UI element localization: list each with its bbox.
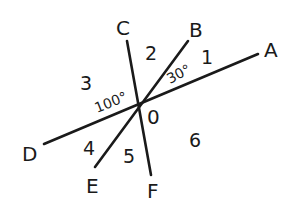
region-3: 3 xyxy=(80,72,92,94)
point-label-b: B xyxy=(189,18,203,42)
region-6: 6 xyxy=(189,129,201,151)
point-label-a: A xyxy=(264,38,278,62)
point-label-e: E xyxy=(86,174,99,198)
point-label-f: F xyxy=(147,179,159,203)
center-label-o: 0 xyxy=(147,105,160,129)
region-4: 4 xyxy=(83,137,95,159)
point-label-d: D xyxy=(22,142,37,166)
geometry-diagram: A B C D E F 0 1 2 3 4 5 6 30° 100° xyxy=(0,0,297,204)
line-ad xyxy=(44,54,258,144)
region-5: 5 xyxy=(123,145,135,167)
region-1: 1 xyxy=(201,46,213,68)
point-label-c: C xyxy=(116,16,130,40)
region-2: 2 xyxy=(145,42,157,64)
